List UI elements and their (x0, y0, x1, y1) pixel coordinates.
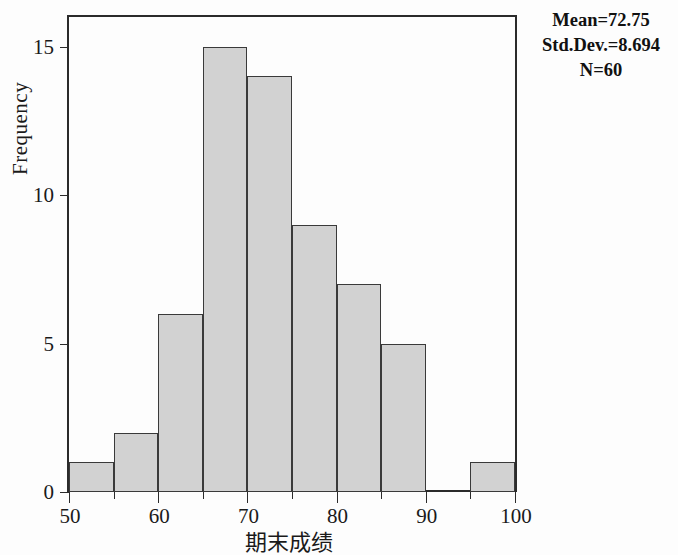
x-axis-tick (381, 492, 382, 499)
y-axis-title: Frequency (8, 82, 33, 175)
histogram-bar (114, 433, 159, 492)
histogram-bar (158, 314, 203, 492)
y-axis-tick-label: 5 (44, 333, 55, 355)
histogram-bar (203, 47, 248, 492)
y-axis-tick-label: 0 (44, 481, 55, 503)
x-axis-tick: 90 (426, 492, 427, 503)
histogram-bar (292, 225, 337, 492)
y-axis-tick: 5 (60, 344, 69, 345)
x-axis-tick: 80 (337, 492, 338, 503)
x-axis-tick (470, 492, 471, 499)
x-axis-title: 期末成绩 (0, 524, 578, 555)
x-axis-tick (292, 492, 293, 499)
histogram-bar (337, 284, 382, 492)
y-axis-tick: 15 (60, 47, 69, 48)
histogram-bar (69, 462, 114, 492)
histogram-bars (69, 17, 515, 492)
stat-std-dev: Std.Dev.=8.694 (528, 33, 674, 58)
y-axis-tick-label: 10 (33, 184, 54, 206)
y-axis-tick-label: 15 (33, 36, 54, 58)
x-axis-tick: 50 (69, 492, 70, 503)
y-axis-tick: 0 (60, 492, 69, 493)
x-axis-tick: 70 (247, 492, 248, 503)
histogram-bar (247, 76, 292, 492)
x-axis-tick: 100 (515, 492, 516, 503)
stat-mean: Mean=72.75 (528, 8, 674, 33)
histogram-bar (381, 344, 426, 492)
x-axis-tick (114, 492, 115, 499)
histogram-chart: 051015 5060708090100 Frequency 期末成绩 Mean… (0, 0, 678, 555)
stat-n: N=60 (528, 58, 674, 83)
histogram-bar (470, 462, 515, 492)
y-axis-tick: 10 (60, 195, 69, 196)
x-axis-tick (203, 492, 204, 499)
statistics-annotation: Mean=72.75 Std.Dev.=8.694 N=60 (528, 8, 674, 83)
x-axis-tick: 60 (158, 492, 159, 503)
plot-area: 051015 5060708090100 (69, 17, 515, 490)
